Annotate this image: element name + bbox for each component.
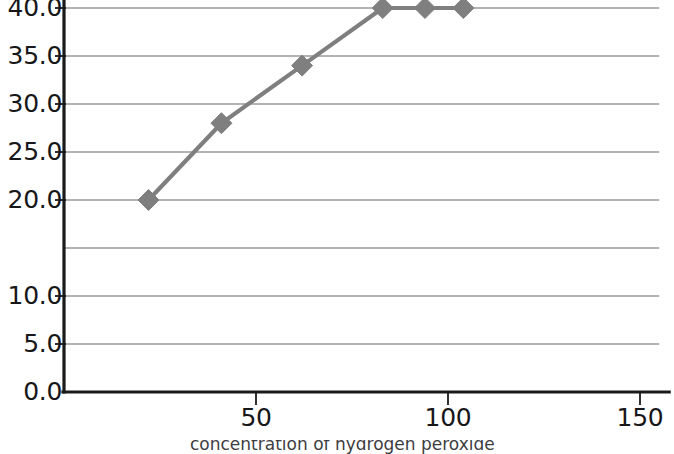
x-axis-title: concentration of hydrogen peroxide	[0, 440, 674, 454]
chart-container: 0.05.010.020.025.030.035.040.045.0 50100…	[0, 0, 674, 454]
x-tick-label: 100	[403, 404, 493, 431]
x-tick-label: 50	[211, 404, 301, 431]
x-axis-tick-labels: 50100150	[0, 0, 674, 454]
x-axis-title-text: concentration of hydrogen peroxide	[190, 440, 495, 454]
x-tick-label: 150	[595, 404, 674, 431]
